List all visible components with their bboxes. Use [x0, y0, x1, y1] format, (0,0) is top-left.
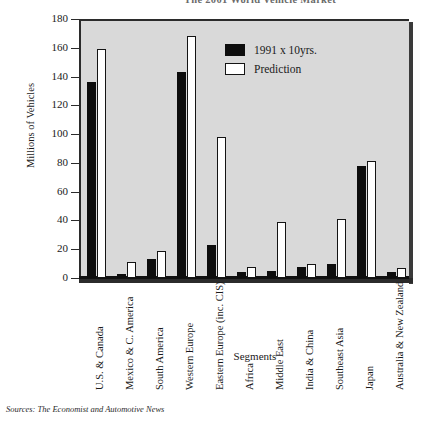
x-axis-category-labels: U.S. & CanadaMexico & C. AmericaSouth Am…	[79, 283, 413, 391]
y-axis-tick-labels: 020406080100120140160180	[0, 0, 68, 300]
legend-item-label: 1991 x 10yrs.	[254, 44, 317, 56]
y-axis-tick	[71, 278, 79, 279]
bar-group	[147, 19, 166, 278]
hollow-square-icon	[225, 63, 245, 75]
y-axis-tick	[71, 105, 79, 106]
x-axis-category-label: Middle East	[274, 282, 286, 390]
bar-prediction	[97, 49, 106, 278]
bar-prediction	[337, 219, 346, 278]
bar-prediction	[367, 161, 376, 278]
bar-actual	[177, 72, 186, 278]
bar-group	[357, 19, 376, 278]
source-note: Sources: The Economist and Automotive Ne…	[6, 404, 164, 414]
x-axis-title: Segments	[200, 350, 310, 362]
y-axis-tick	[71, 163, 79, 164]
y-axis-tick	[71, 192, 79, 193]
chart-legend: 1991 x 10yrs.Prediction	[225, 44, 317, 82]
bar-group	[117, 19, 136, 278]
bar-actual	[387, 272, 396, 278]
y-axis-tick	[71, 77, 79, 78]
x-axis-category-label: Mexico & C. America	[124, 282, 136, 390]
plot-frame-right-edge	[409, 22, 413, 284]
y-axis-tick-label: 20	[6, 243, 68, 254]
chart-figure: The 2001 World Vehicle Market Millions o…	[0, 0, 441, 426]
bar-group	[387, 19, 406, 278]
y-axis-tick-label: 180	[6, 13, 68, 24]
bar-actual	[87, 82, 96, 278]
chart-title: The 2001 World Vehicle Market	[110, 0, 410, 3]
x-axis-category-label: Australia & New Zealand	[394, 282, 406, 390]
y-axis-tick-label: 120	[6, 99, 68, 110]
x-axis-category-label: South America	[154, 282, 166, 390]
x-axis-category-label: U.S. & Canada	[94, 282, 106, 390]
bar-group	[177, 19, 196, 278]
x-axis-label-wrap: India & China	[303, 283, 317, 391]
bar-actual	[207, 245, 216, 278]
y-axis-tick	[71, 48, 79, 49]
filled-square-icon	[225, 44, 245, 56]
bar-group	[327, 19, 346, 278]
bar-prediction	[157, 251, 166, 278]
x-axis-label-wrap: Middle East	[273, 283, 287, 391]
y-axis-tick-label: 60	[6, 186, 68, 197]
y-axis-tick-label: 0	[6, 272, 68, 283]
y-axis-tick	[71, 19, 79, 20]
bar-prediction	[277, 222, 286, 278]
legend-item: 1991 x 10yrs.	[225, 44, 317, 56]
bar-actual	[267, 271, 276, 278]
bar-actual	[297, 267, 306, 279]
bar-prediction	[187, 36, 196, 278]
x-axis-category-label: Japan	[364, 282, 376, 390]
bar-actual	[327, 264, 336, 278]
y-axis-tick-label: 140	[6, 71, 68, 82]
bar-group	[207, 19, 226, 278]
bar-prediction	[307, 264, 316, 278]
x-axis-label-wrap: Australia & New Zealand	[393, 283, 407, 391]
x-axis-category-label: Eastern Europe (inc. CIS)	[214, 282, 226, 390]
bar-prediction	[397, 268, 406, 278]
legend-item: Prediction	[225, 63, 317, 75]
y-axis-tick-label: 80	[6, 157, 68, 168]
bar-actual	[147, 259, 156, 278]
y-axis-tick-label: 100	[6, 128, 68, 139]
x-axis-label-wrap: Eastern Europe (inc. CIS)	[213, 283, 227, 391]
x-axis-label-wrap: South America	[153, 283, 167, 391]
x-axis-label-wrap: Mexico & C. America	[123, 283, 137, 391]
bar-actual	[117, 274, 126, 278]
y-axis-tick	[71, 249, 79, 250]
x-axis-label-wrap: Japan	[363, 283, 377, 391]
x-axis-label-wrap: U.S. & Canada	[93, 283, 107, 391]
x-axis-category-label: India & China	[304, 282, 316, 390]
bar-prediction	[217, 137, 226, 278]
x-axis-label-wrap: Africa	[243, 283, 257, 391]
x-axis-category-label: Southeast Asia	[334, 282, 346, 390]
bar-actual	[237, 272, 246, 278]
y-axis-tick-label: 160	[6, 42, 68, 53]
legend-item-label: Prediction	[254, 63, 301, 75]
y-axis-tick	[71, 220, 79, 221]
x-axis-label-wrap: Western Europe	[183, 283, 197, 391]
x-axis-category-label: Western Europe	[184, 282, 196, 390]
bar-prediction	[247, 267, 256, 279]
bar-group	[87, 19, 106, 278]
y-axis-tick	[71, 134, 79, 135]
bar-prediction	[127, 262, 136, 278]
x-axis-category-label: Africa	[244, 282, 256, 390]
x-axis-label-wrap: Southeast Asia	[333, 283, 347, 391]
bar-actual	[357, 166, 366, 278]
y-axis-tick-label: 40	[6, 214, 68, 225]
